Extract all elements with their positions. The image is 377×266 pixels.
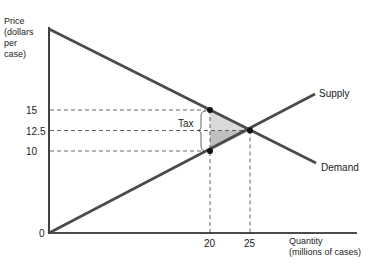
y-axis-label: Price (dollars per case) xyxy=(4,16,36,59)
dwl-lower-region xyxy=(210,131,250,152)
tax-label: Tax xyxy=(178,118,194,129)
origin-label: 0 xyxy=(39,228,45,239)
y-tick-10: 10 xyxy=(26,146,38,157)
supply-label: Supply xyxy=(319,88,350,99)
demand-label: Demand xyxy=(321,162,359,173)
supply-demand-chart: Price (dollars per case) 15 12.5 10 0 20… xyxy=(0,0,377,266)
point-seller-price xyxy=(207,148,213,154)
supply-line xyxy=(49,94,315,233)
x-tick-25: 25 xyxy=(244,238,256,249)
y-tick-15: 15 xyxy=(26,105,38,116)
y-tick-12-5: 12.5 xyxy=(26,126,46,137)
point-equilibrium xyxy=(247,128,253,134)
x-tick-20: 20 xyxy=(204,238,216,249)
point-buyer-price xyxy=(207,107,213,113)
x-axis-label: Quantity (millions of cases) xyxy=(289,236,361,257)
demand-line xyxy=(49,29,316,163)
tax-brace xyxy=(197,111,206,151)
